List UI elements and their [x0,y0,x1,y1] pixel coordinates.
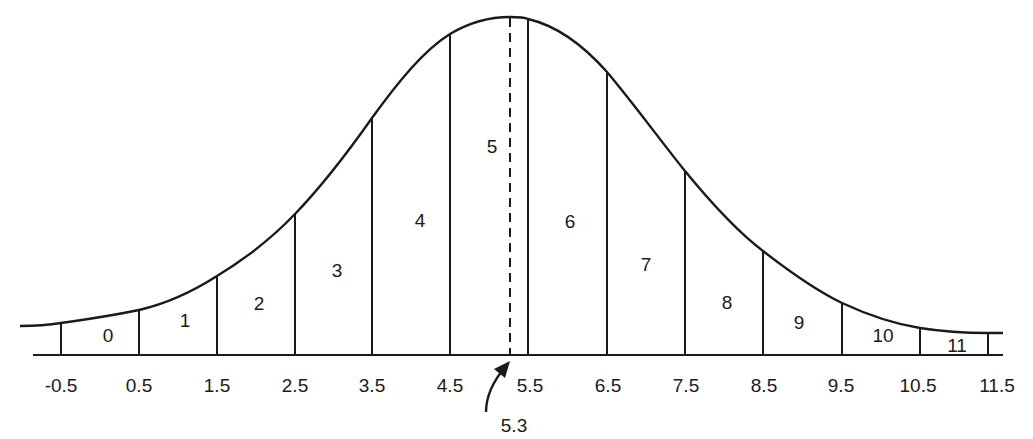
bin-label: 6 [565,211,576,232]
tick-label: 5.5 [517,375,543,396]
x-tick-labels: -0.5 0.5 1.5 2.5 3.5 4.5 5.5 6.5 7.5 8.5… [45,375,1015,396]
bin-label: 9 [794,312,805,333]
bin-label: 1 [180,310,191,331]
tick-label: 3.5 [359,375,385,396]
tick-label: 4.5 [437,375,463,396]
bin-label: 8 [722,292,733,313]
bin-label: 5 [487,136,498,157]
bell-curve [20,17,1003,333]
normal-distribution-diagram: 0 1 2 3 4 5 6 7 8 9 10 11 -0.5 0.5 1.5 2… [0,0,1033,439]
bin-labels: 0 1 2 3 4 5 6 7 8 9 10 11 [103,136,967,356]
tick-label: 11.5 [979,375,1015,396]
bin-label: 11 [947,335,967,356]
bin-label: 0 [103,325,114,346]
bin-label: 7 [641,254,652,275]
tick-label: 9.5 [828,375,854,396]
bin-label: 2 [254,293,265,314]
bin-label: 3 [332,260,343,281]
tick-label: 1.5 [204,375,230,396]
bin-label: 4 [415,210,426,231]
tick-label: 10.5 [900,375,937,396]
bin-boundaries [61,19,988,355]
mean-label: 5.3 [501,415,527,436]
tick-label: 8.5 [751,375,777,396]
tick-label: 2.5 [282,375,308,396]
bin-label: 10 [872,325,893,346]
mean-arrow-icon [486,361,510,412]
tick-label: 6.5 [595,375,621,396]
tick-label: 0.5 [126,375,152,396]
tick-label: -0.5 [45,375,78,396]
tick-label: 7.5 [673,375,699,396]
